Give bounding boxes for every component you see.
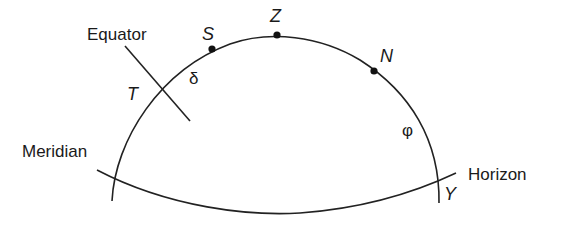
point-n-label: N	[380, 46, 394, 66]
equator-label: Equator	[87, 25, 147, 44]
celestial-sphere-diagram: Equator Meridian Horizon S Z N T Y δ φ	[0, 0, 572, 226]
point-y-label: Y	[444, 184, 458, 204]
point-t-label: T	[127, 84, 140, 104]
delta-angle-label: δ	[189, 69, 198, 88]
horizon-label: Horizon	[468, 165, 527, 184]
phi-angle-label: φ	[402, 121, 413, 140]
point-z-dot	[273, 31, 280, 38]
horizon-curve	[97, 170, 456, 214]
meridian-label: Meridian	[22, 142, 87, 161]
point-n-dot	[370, 67, 377, 74]
point-s-label: S	[202, 24, 214, 44]
point-s-dot	[208, 45, 215, 52]
point-z-label: Z	[269, 6, 282, 26]
